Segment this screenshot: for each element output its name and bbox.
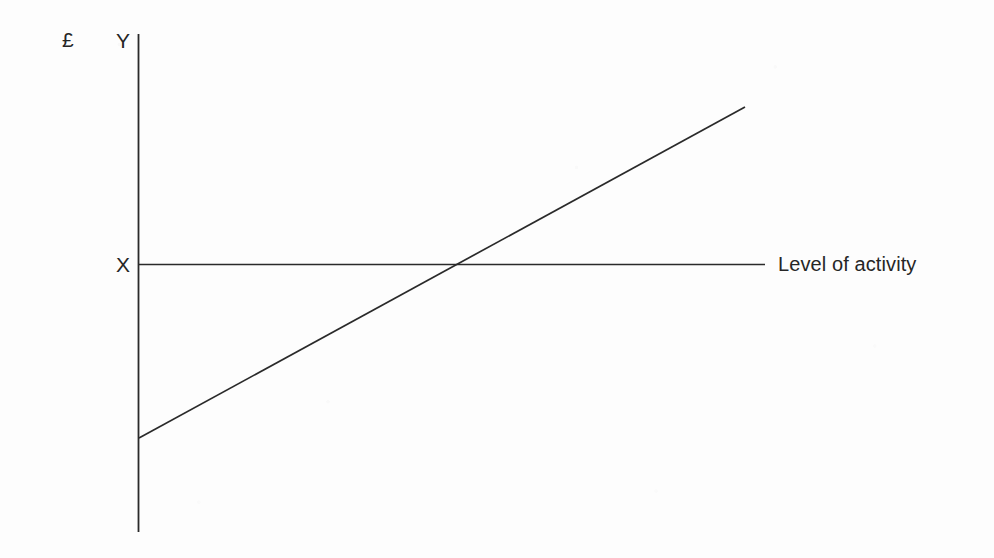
x-level-label: X <box>116 254 130 275</box>
currency-unit-label: £ <box>62 29 74 50</box>
chart-canvas <box>0 0 994 558</box>
cost-behaviour-chart: £ Y X Level of activity <box>0 0 994 558</box>
y-axis-label: Y <box>116 30 130 51</box>
activity-axis-label: Level of activity <box>778 254 916 274</box>
series-line-y-rising <box>139 107 745 438</box>
